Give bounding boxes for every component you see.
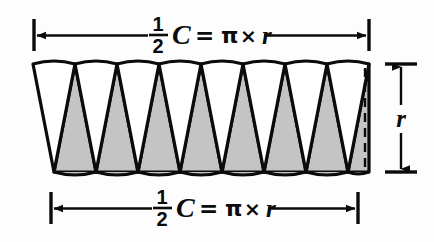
bottom-arc [264, 172, 306, 175]
bottom-pi-symbol: π [225, 196, 242, 221]
bottom-arc [306, 172, 348, 175]
bottom-fraction-denominator: 2 [156, 208, 167, 230]
bottom-arc [96, 172, 138, 175]
right-radius-label: r [396, 105, 406, 132]
bottom-arc [180, 172, 222, 175]
bottom-arc [54, 172, 96, 175]
top-pi-symbol: π [221, 23, 238, 48]
wedge-bottom-arcs [54, 172, 369, 175]
bottom-circumference-symbol: C [176, 192, 195, 223]
bottom-equals-sign: = [199, 195, 218, 221]
bottom-arc [138, 172, 180, 175]
top-label-half-circumference: 1 2 C = π × r [149, 13, 272, 57]
top-fraction-numerator: 1 [152, 13, 163, 35]
bottom-fraction-numerator: 1 [156, 186, 167, 208]
right-dimension-arrow: r [385, 64, 417, 172]
circle-area-dissection-figure: 1 2 C = π × r [0, 0, 434, 242]
top-radius-symbol: r [262, 22, 272, 49]
wedge-band [33, 61, 369, 175]
bottom-label-half-circumference: 1 2 C = π × r [153, 186, 276, 230]
top-circumference-symbol: C [172, 19, 191, 50]
bottom-times-symbol: × [244, 197, 261, 221]
top-times-symbol: × [240, 24, 257, 48]
bottom-radius-symbol: r [266, 195, 276, 222]
top-fraction-denominator: 2 [152, 35, 163, 57]
diagram-canvas: 1 2 C = π × r [0, 0, 434, 242]
bottom-arc [348, 172, 369, 174]
bottom-arc [222, 172, 264, 175]
top-equals-sign: = [195, 22, 214, 48]
